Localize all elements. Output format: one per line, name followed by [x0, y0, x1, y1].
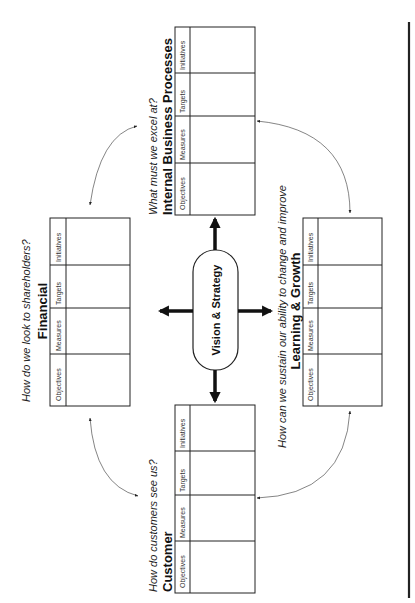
customer-question: How do customers see us?: [147, 458, 159, 592]
customer-table: Objectives Measures Targets Initiatives: [175, 405, 255, 593]
internal-col-targets: Targets: [179, 90, 187, 113]
customer-col-targets: Targets: [179, 469, 187, 492]
financial-question: How do we look to shareholders?: [20, 238, 32, 402]
learning-table: Objectives Measures Targets Initiatives: [303, 218, 382, 406]
perspective-learning-growth: How can we sustain our ability to change…: [276, 185, 382, 448]
financial-title: Financial: [35, 283, 50, 339]
connector-internal-learning: [257, 121, 350, 213]
customer-col-initiatives: Initiatives: [179, 418, 186, 448]
internal-col-initiatives: Initiatives: [179, 40, 186, 70]
financial-col-targets: Targets: [55, 282, 63, 305]
learning-col-initiatives: Initiatives: [307, 232, 314, 262]
financial-col-objectives: Objectives: [55, 368, 63, 401]
connector-customer-financial: [90, 418, 138, 496]
customer-col-measures: Measures: [179, 507, 186, 538]
internal-question: What must we excel at?: [147, 97, 159, 215]
learning-title: Learning & Growth: [288, 252, 303, 369]
internal-table: Objectives Measures Targets Initiatives: [175, 27, 255, 215]
internal-col-objectives: Objectives: [179, 177, 187, 210]
financial-col-measures: Measures: [55, 320, 62, 351]
perspective-customer: How do customers see us? Customer Object…: [147, 405, 255, 593]
perspective-internal-business-processes: What must we excel at? Internal Business…: [147, 27, 255, 215]
vision-label: Vision & Strategy: [210, 264, 222, 356]
balanced-scorecard-diagram: What must we excel at? Internal Business…: [0, 0, 415, 603]
learning-col-measures: Measures: [307, 320, 314, 351]
connector-financial-internal: [90, 126, 137, 205]
perspective-financial: How do we look to shareholders? Financia…: [20, 218, 130, 406]
customer-col-objectives: Objectives: [179, 555, 187, 588]
learning-col-targets: Targets: [307, 282, 315, 305]
vision-strategy-hub: Vision & Strategy: [160, 219, 271, 401]
internal-title: Internal Business Processes: [160, 38, 175, 215]
financial-col-initiatives: Initiatives: [55, 232, 62, 262]
customer-title: Customer: [160, 531, 175, 592]
financial-table: Objectives Measures Targets Initiatives: [50, 218, 130, 406]
learning-col-objectives: Objectives: [307, 368, 315, 401]
learning-question: How can we sustain our ability to change…: [276, 185, 288, 448]
internal-col-measures: Measures: [179, 129, 186, 160]
connector-learning-customer: [257, 411, 350, 498]
